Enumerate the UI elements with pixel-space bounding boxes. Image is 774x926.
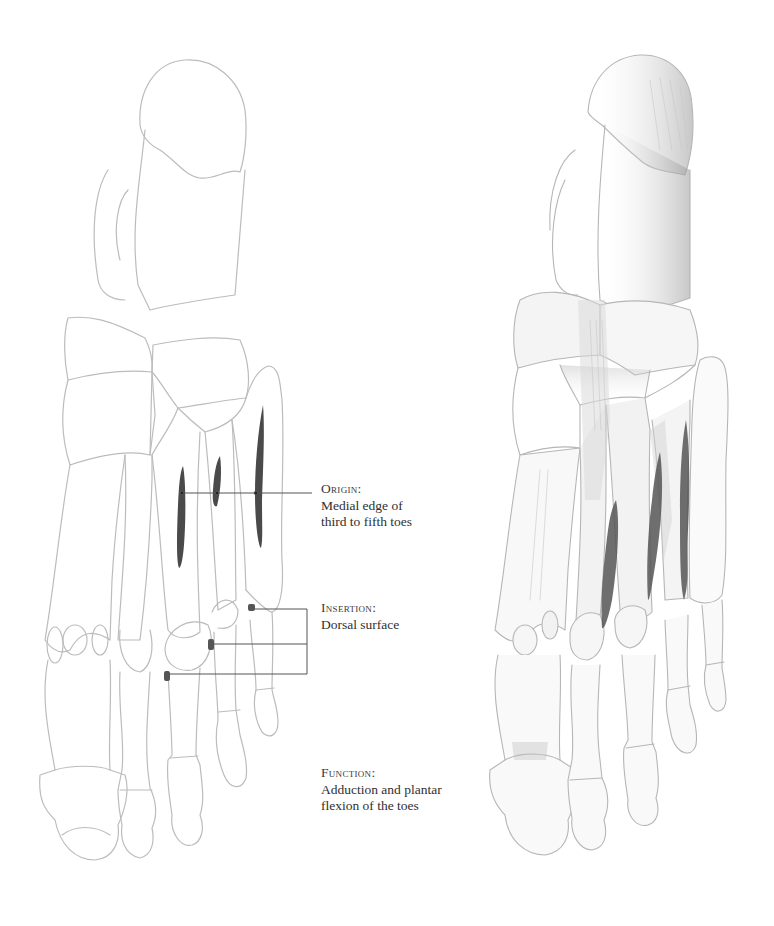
fourth-toe xyxy=(214,625,247,787)
insertion-text-line-1: Dorsal surface xyxy=(321,617,399,634)
right-fifth-metatarsal xyxy=(689,357,728,603)
right-first-metatarsal xyxy=(495,448,580,642)
insertion-mark-third xyxy=(164,671,170,681)
navicular-bone xyxy=(65,317,153,380)
second-toe xyxy=(118,672,156,858)
right-fifth-toe xyxy=(702,600,726,711)
insertion-label: Insertion: Dorsal surface xyxy=(321,600,399,633)
right-foot-drawing xyxy=(490,55,728,855)
origin-text-line-2: third to fifth toes xyxy=(321,514,412,531)
cuboid-bone xyxy=(152,338,248,408)
right-third-toe xyxy=(622,655,658,825)
right-second-toe xyxy=(568,665,608,850)
talus-bone xyxy=(140,60,246,178)
third-metatarsal xyxy=(152,432,200,638)
origin-mark-third-toe xyxy=(177,466,185,568)
left-foot-drawing xyxy=(40,60,283,860)
insertion-marks xyxy=(164,604,255,681)
hallux-phalanx xyxy=(40,660,127,860)
right-cuboid xyxy=(600,301,698,375)
origin-mark-fifth-toe xyxy=(255,405,264,548)
first-metatarsal xyxy=(45,455,125,652)
origin-text-line-1: Medial edge of xyxy=(321,498,412,515)
insertion-mark-fifth xyxy=(248,604,255,611)
leader-lines xyxy=(168,491,312,674)
insertion-leader-bracket xyxy=(168,609,307,674)
function-text-line-1: Adduction and plantar xyxy=(321,782,442,799)
origin-heading: Origin: xyxy=(321,481,362,496)
calcaneus-bone xyxy=(135,130,245,310)
function-text-line-2: flexion of the toes xyxy=(321,798,442,815)
origin-mark-fourth-toe xyxy=(213,456,221,506)
origin-label: Origin: Medial edge of third to fifth to… xyxy=(321,481,412,531)
origin-marks xyxy=(177,405,264,568)
function-heading: Function: xyxy=(321,765,375,780)
fourth-metatarsal xyxy=(205,420,236,610)
insertion-heading: Insertion: xyxy=(321,600,376,615)
function-label: Function: Adduction and plantar flexion … xyxy=(321,765,442,815)
right-fourth-toe xyxy=(665,615,697,753)
second-metatarsal xyxy=(118,455,152,640)
